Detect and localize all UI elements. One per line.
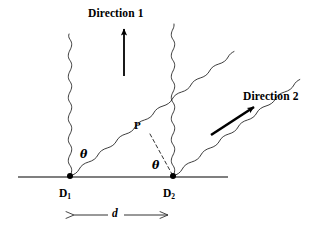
detector-1-label: D1 bbox=[59, 188, 71, 200]
detector-2-subscript: 2 bbox=[171, 192, 175, 201]
separation-label: d bbox=[112, 208, 118, 220]
point-p-label: P bbox=[134, 120, 141, 131]
wave-diagonal-from-d1 bbox=[70, 52, 234, 177]
direction-1-label: Direction 1 bbox=[88, 8, 144, 20]
detector-1-subscript: 1 bbox=[67, 192, 71, 201]
detector-1-point bbox=[67, 173, 73, 179]
detector-2-label: D2 bbox=[163, 188, 175, 200]
diagram-canvas bbox=[0, 0, 313, 235]
wave-vertical-from-d1 bbox=[68, 34, 71, 176]
direction-2-label: Direction 2 bbox=[243, 91, 299, 103]
interference-diagram: Direction 1 Direction 2 D1 D2 P θ θ d bbox=[0, 0, 313, 235]
direction-2-arrow bbox=[211, 107, 254, 135]
theta-left-label: θ bbox=[80, 149, 87, 160]
detector-2-point bbox=[170, 173, 176, 179]
theta-right-label: θ bbox=[152, 160, 159, 171]
